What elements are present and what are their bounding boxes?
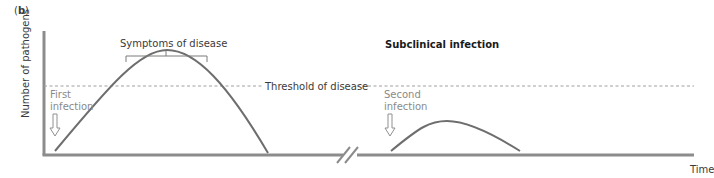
first-infection-arrow-icon <box>50 114 60 136</box>
symptoms-label: Symptoms of disease <box>120 38 227 49</box>
subclinical-label: Subclinical infection <box>385 39 499 50</box>
infection-diagram: (b) Number of pathogens Threshold of dis… <box>0 0 714 178</box>
second-infection-arrow-icon <box>385 114 395 136</box>
y-axis-label: Number of pathogens <box>20 9 31 118</box>
x-axis-label: Time <box>689 164 714 175</box>
first-infection-label: First infection <box>50 89 93 112</box>
threshold-label: Threshold of disease <box>264 81 368 92</box>
second-infection-curve <box>391 121 520 151</box>
second-infection-label: Second infection <box>384 89 427 112</box>
